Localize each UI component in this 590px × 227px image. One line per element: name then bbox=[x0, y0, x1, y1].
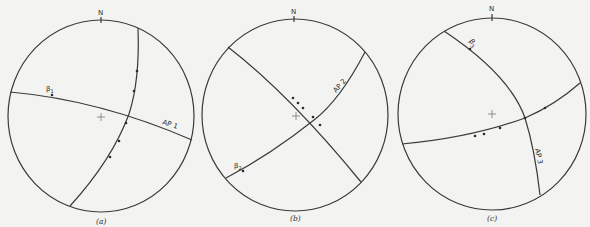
center-cross-b bbox=[292, 112, 300, 120]
caption-c: (c) bbox=[487, 214, 497, 223]
stereonet-panel-b: N β2 AP 2 (b) bbox=[202, 8, 388, 223]
stereonet-panel-a: N β1 AP 1 (a) bbox=[8, 9, 194, 226]
ap3-label: AP 3 bbox=[533, 148, 544, 165]
pole-points-b bbox=[242, 97, 322, 173]
stereonet-figure: N β1 AP 1 (a) N bbox=[0, 0, 590, 227]
center-cross-a bbox=[97, 113, 105, 121]
stereonet-panel-c: N β3 AP 3 (c) bbox=[398, 5, 586, 223]
beta-label-b: β2 bbox=[234, 162, 242, 171]
caption-a: (a) bbox=[96, 217, 106, 226]
axial-plane-2-trace bbox=[226, 52, 365, 178]
beta-label-a: β1 bbox=[46, 85, 54, 94]
pole-points-a bbox=[51, 70, 139, 159]
bedding-great-circle-c bbox=[402, 83, 580, 144]
north-label-b: N bbox=[291, 8, 296, 16]
north-label-c: N bbox=[489, 5, 494, 13]
bedding-great-circle-b bbox=[228, 47, 361, 182]
caption-b: (b) bbox=[290, 214, 301, 223]
north-label-a: N bbox=[98, 9, 103, 17]
beta-label-c: β3 bbox=[467, 38, 479, 49]
center-cross-c bbox=[488, 110, 496, 118]
